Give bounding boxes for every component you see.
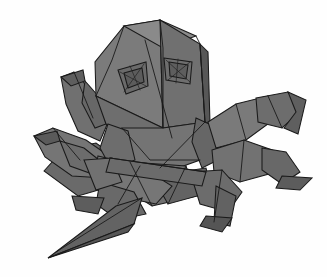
origami-illustration-canvas <box>0 0 327 277</box>
origami-crab-figure <box>0 0 327 277</box>
